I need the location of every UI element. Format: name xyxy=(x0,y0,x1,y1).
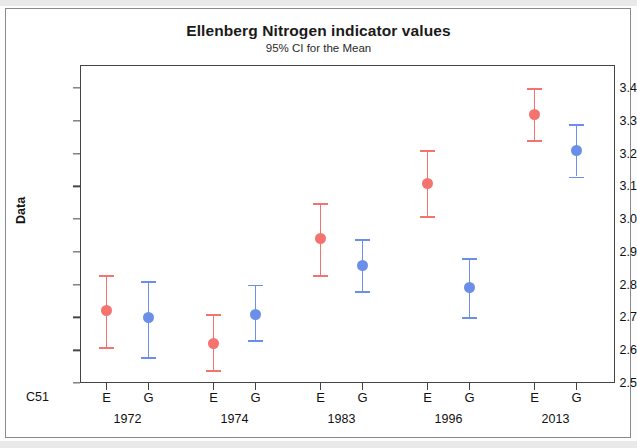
error-bar-cap-lower xyxy=(355,291,370,293)
y-tick-mark xyxy=(73,317,80,318)
error-bar-cap-lower xyxy=(99,347,114,349)
x-group-label-1983: 1983 xyxy=(302,412,382,426)
x-tick-mark xyxy=(362,383,363,390)
error-bar-cap-lower xyxy=(141,357,156,359)
error-bar-cap-upper xyxy=(141,281,156,283)
chart-title: Ellenberg Nitrogen indicator values xyxy=(0,22,637,40)
y-tick-mark xyxy=(73,120,80,121)
x-group-label-1996: 1996 xyxy=(409,412,489,426)
mean-marker xyxy=(101,305,112,316)
x-tick-label-1983-g: G xyxy=(343,390,383,405)
error-bar-cap-upper xyxy=(462,258,477,260)
chart-figure: Ellenberg Nitrogen indicator values 95% … xyxy=(0,0,637,448)
error-bar-cap-upper xyxy=(99,275,114,277)
x-tick-label-1996-e: E xyxy=(408,390,448,405)
mean-marker xyxy=(464,282,475,293)
error-bar-cap-lower xyxy=(420,216,435,218)
x-tick-label-1996-g: G xyxy=(450,390,490,405)
x-tick-mark xyxy=(148,383,149,390)
x-tick-mark xyxy=(255,383,256,390)
mean-marker xyxy=(422,178,433,189)
mean-marker xyxy=(529,109,540,120)
y-tick-mark xyxy=(73,218,80,219)
x-tick-mark xyxy=(576,383,577,390)
error-bar-cap-lower xyxy=(248,340,263,342)
error-bar-cap-upper xyxy=(420,150,435,152)
error-bar-cap-upper xyxy=(355,239,370,241)
x-group-label-2013: 2013 xyxy=(516,412,596,426)
plot-area xyxy=(80,65,615,383)
x-tick-label-2013-e: E xyxy=(515,390,555,405)
x-group-label-1974: 1974 xyxy=(195,412,275,426)
error-bar-cap-lower xyxy=(206,370,221,372)
x-group-label-1972: 1972 xyxy=(88,412,168,426)
scan-artifact-top xyxy=(0,0,637,6)
x-tick-label-1983-e: E xyxy=(301,390,341,405)
y-tick-mark xyxy=(73,87,80,88)
error-bar-cap-upper xyxy=(206,314,221,316)
x-tick-mark xyxy=(213,383,214,390)
x-tick-label-2013-g: G xyxy=(557,390,597,405)
y-tick-mark xyxy=(73,382,80,383)
error-bar-cap-lower xyxy=(527,140,542,142)
error-bar-cap-upper xyxy=(569,124,584,126)
y-tick-mark xyxy=(73,350,80,351)
error-bar-cap-upper xyxy=(248,285,263,287)
x-tick-mark xyxy=(106,383,107,390)
x-tick-label-1972-e: E xyxy=(87,390,127,405)
error-bar-cap-lower xyxy=(313,275,328,277)
error-bar-cap-lower xyxy=(569,177,584,179)
y-tick-mark xyxy=(73,251,80,252)
x-tick-mark xyxy=(469,383,470,390)
mean-marker xyxy=(143,312,154,323)
error-bar-cap-lower xyxy=(462,317,477,319)
mean-marker xyxy=(315,233,326,244)
x-axis-name: C51 xyxy=(26,390,49,404)
x-tick-label-1974-e: E xyxy=(194,390,234,405)
scan-artifact-bottom xyxy=(0,441,637,448)
x-tick-label-1974-g: G xyxy=(236,390,276,405)
y-tick-mark xyxy=(73,186,80,187)
mean-marker xyxy=(357,260,368,271)
x-tick-mark xyxy=(320,383,321,390)
mean-marker xyxy=(208,338,219,349)
y-tick-mark xyxy=(73,284,80,285)
error-bar-cap-upper xyxy=(313,203,328,205)
y-tick-mark xyxy=(73,153,80,154)
error-bar-cap-upper xyxy=(527,88,542,90)
x-tick-mark xyxy=(427,383,428,390)
y-axis-label: Data xyxy=(14,197,28,224)
chart-subtitle: 95% CI for the Mean xyxy=(0,42,637,54)
mean-marker xyxy=(571,145,582,156)
x-tick-label-1972-g: G xyxy=(129,390,169,405)
mean-marker xyxy=(250,309,261,320)
x-tick-mark xyxy=(534,383,535,390)
